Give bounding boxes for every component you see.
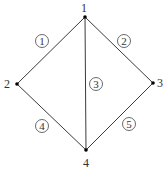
edge-label-1-text: 1 — [39, 35, 45, 47]
edge-label-5-text: 5 — [126, 118, 132, 130]
node-2-dot — [15, 82, 19, 86]
node-2-label: 2 — [4, 77, 10, 91]
edge-1-3 — [85, 17, 153, 83]
node-4-label: 4 — [83, 156, 89, 170]
node-3-dot — [151, 81, 155, 85]
edge-label-1: 1 — [36, 35, 49, 48]
node-3-label: 3 — [157, 76, 163, 90]
node-1-label: 1 — [81, 1, 87, 15]
edge-label-2: 2 — [118, 35, 131, 48]
edge-label-2-text: 2 — [121, 35, 127, 47]
edge-label-3: 3 — [90, 78, 103, 91]
graph-diagram: 1 2 3 4 1 2 3 4 5 — [0, 0, 168, 172]
node-4-dot — [84, 148, 88, 152]
edge-label-4-text: 4 — [39, 120, 45, 132]
edge-1-2 — [17, 17, 85, 84]
node-1-dot — [83, 15, 87, 19]
edge-label-4: 4 — [36, 120, 49, 133]
edge-label-5: 5 — [123, 118, 136, 131]
edge-1-4 — [85, 17, 86, 150]
edge-label-3-text: 3 — [93, 78, 99, 90]
edge-2-4 — [17, 84, 86, 150]
edge-3-4 — [86, 83, 153, 150]
